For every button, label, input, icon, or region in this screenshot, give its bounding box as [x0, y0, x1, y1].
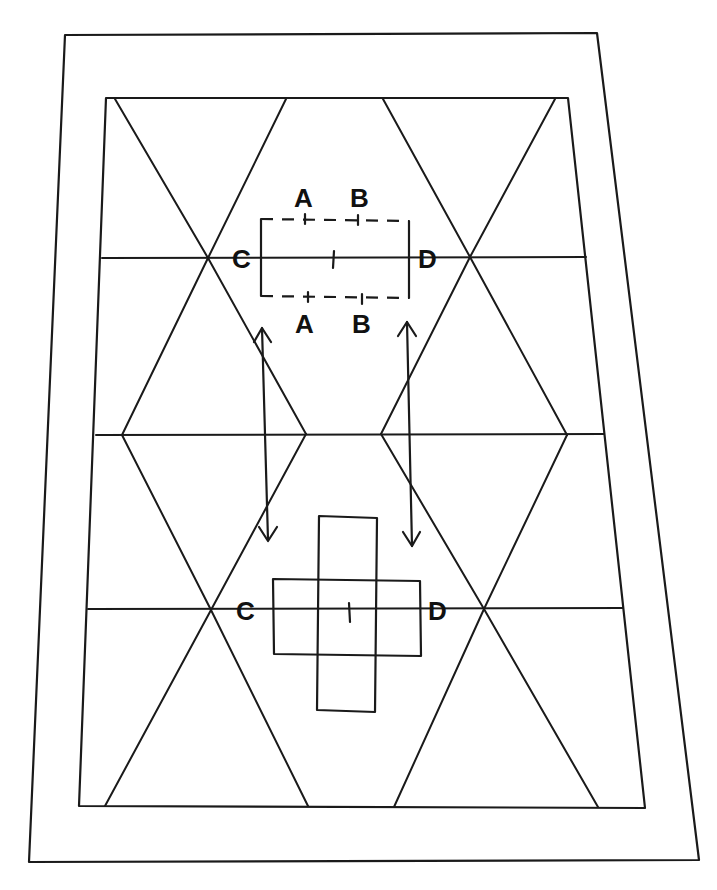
horizontal-rectangle — [273, 579, 421, 656]
label-a-bottom: A — [295, 309, 314, 339]
outer-frame — [29, 33, 699, 862]
top-formation: A B A B C D — [232, 183, 437, 339]
vertical-rectangle — [317, 516, 377, 712]
bottom-formation: C D — [236, 516, 447, 712]
center-mark-bottom — [349, 603, 350, 622]
label-c-bottom: C — [236, 596, 255, 626]
label-b-bottom: B — [352, 309, 371, 339]
label-b-top: B — [350, 183, 369, 213]
label-c-top: C — [232, 244, 251, 274]
center-mark-top — [333, 251, 334, 268]
label-a-top: A — [294, 183, 313, 213]
label-d-bottom: D — [428, 596, 447, 626]
diagram-canvas: A B A B C D C D — [0, 0, 717, 890]
label-d-top: D — [418, 244, 437, 274]
